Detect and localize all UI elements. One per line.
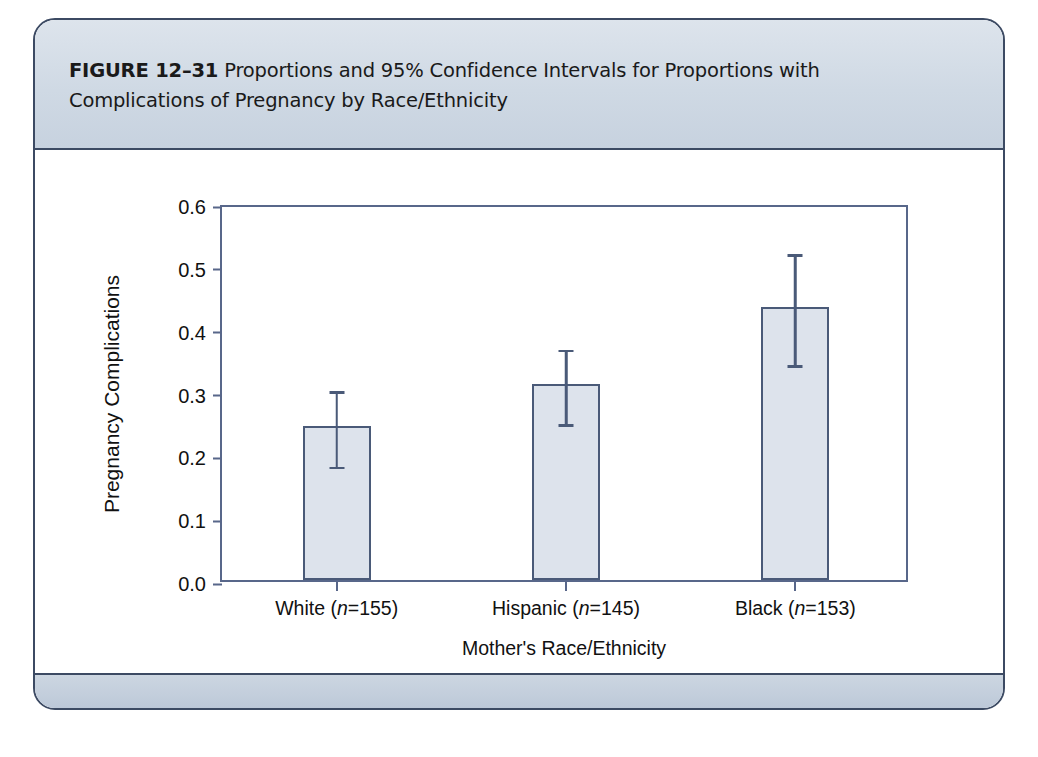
y-axis-tick-label: 0.4 [178,321,206,344]
error-bar [327,391,347,469]
x-axis-tick-mark [794,580,796,591]
error-bar [785,254,805,368]
y-axis-tick-mark [213,457,222,459]
error-bar [556,350,576,427]
y-axis-title: Pregnancy Complications [97,205,127,582]
y-axis-tick: 0.4 [178,321,222,344]
y-axis-tick-mark [213,395,222,397]
chart-plot-region: Pregnancy Complications 0.00.10.20.30.40… [35,150,1003,675]
y-axis-tick-mark [213,520,222,522]
error-bar-cap-lower [329,467,344,470]
y-axis-tick-mark [213,583,222,585]
y-axis-tick-label: 0.5 [178,258,206,281]
y-axis-tick: 0.2 [178,447,222,470]
x-axis-tick-label: White (n=155) [275,597,398,620]
x-axis-tick-mark [565,580,567,591]
y-axis-tick-label: 0.6 [178,196,206,219]
y-axis-tick: 0.3 [178,384,222,407]
x-axis-tick-label: Hispanic (n=145) [492,597,640,620]
x-axis-tick-mark [336,580,338,591]
y-axis-tick-mark [213,332,222,334]
y-axis-tick-label: 0.2 [178,447,206,470]
error-bar-cap-lower [559,424,574,427]
figure-caption-band: FIGURE 12–31 Proportions and 95% Confide… [35,20,1003,150]
x-axis-title: Mother's Race/Ethnicity [220,637,908,660]
error-bar-line [794,254,797,368]
x-axis-tick-label: Black (n=153) [735,597,856,620]
x-axis-title-text: Mother's Race/Ethnicity [462,637,666,659]
y-axis-tick: 0.0 [178,573,222,596]
figure-footer-band [35,673,1003,708]
y-axis-tick-label: 0.0 [178,573,206,596]
figure-number-label: FIGURE 12–31 [69,59,218,82]
figure-frame: FIGURE 12–31 Proportions and 95% Confide… [33,18,1005,710]
y-axis-tick: 0.1 [178,510,222,533]
error-bar-line [335,391,338,469]
error-bar-cap-lower [788,365,803,368]
error-bar-cap-upper [559,350,574,353]
error-bar-line [565,350,568,427]
y-axis-tick: 0.6 [178,196,222,219]
y-axis-tick-mark [213,269,222,271]
plot-area: 0.00.10.20.30.40.50.6White (n=155)Hispan… [220,205,908,582]
error-bar-cap-upper [788,254,803,257]
figure-caption: FIGURE 12–31 Proportions and 95% Confide… [69,56,943,116]
error-bar-cap-upper [329,391,344,394]
y-axis-tick-label: 0.3 [178,384,206,407]
y-axis-tick-label: 0.1 [178,510,206,533]
y-axis-tick: 0.5 [178,258,222,281]
y-axis-tick-mark [213,206,222,208]
y-axis-title-text: Pregnancy Complications [100,274,124,512]
